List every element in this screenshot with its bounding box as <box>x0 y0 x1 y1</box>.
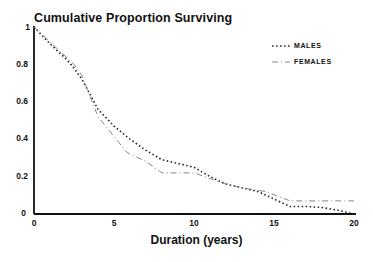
y-tick-0.2: 0.2 <box>0 171 28 181</box>
males-series-line <box>34 27 354 214</box>
x-tick-20: 20 <box>344 218 364 228</box>
x-tick-15: 15 <box>264 218 284 228</box>
x-tick-0: 0 <box>24 218 44 228</box>
x-axis-label: Duration (years) <box>0 233 373 247</box>
y-tick-0.4: 0.4 <box>0 133 28 143</box>
legend-females-label: FEMALES <box>294 58 332 65</box>
legend-males-label: MALES <box>294 42 322 49</box>
y-tick-0: 0 <box>0 208 26 218</box>
x-tick-5: 5 <box>104 218 124 228</box>
x-tick-10: 10 <box>184 218 204 228</box>
females-series-line <box>34 27 354 201</box>
y-tick-0.6: 0.6 <box>0 96 28 106</box>
y-tick-1: 1 <box>0 22 30 32</box>
y-tick-0.8: 0.8 <box>0 59 28 69</box>
